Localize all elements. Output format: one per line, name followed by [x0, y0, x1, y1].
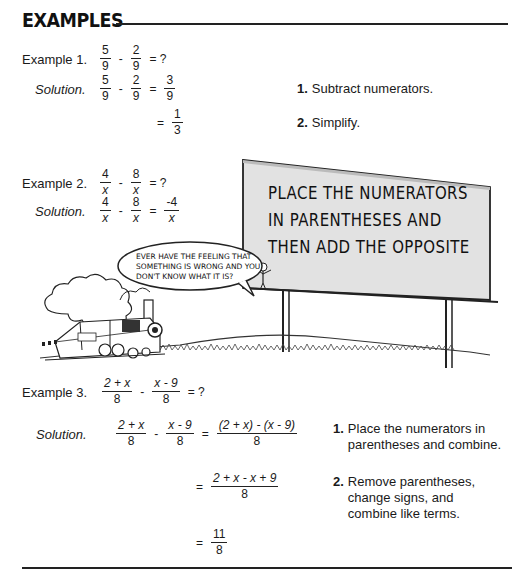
example-3-solution-line-1: 2 + x8 - x - 98 = (2 + x) - (x - 9)8 — [112, 419, 301, 448]
example-3-solution-line-3: = 118 — [192, 528, 231, 557]
example-3-solution-line-2: = 2 + x - x + 98 — [192, 472, 282, 501]
speech-bubble-text: EVER HAVE THE FEELING THAT SOMETHING IS … — [136, 252, 260, 282]
example-3-solution-label: Solution. — [36, 427, 87, 442]
bottom-rule — [22, 567, 512, 569]
example-3-label: Example 3. — [22, 385, 87, 400]
billboard-text: PLACE THE NUMERATORS IN PARENTHESES AND … — [268, 180, 470, 261]
example-3-step-2: 2.Remove parentheses,change signs, andco… — [333, 474, 475, 522]
example-3-problem: 2 + x8 - x - 98 = ? — [98, 377, 209, 406]
example-3-step-1: 1.Place the numerators inparentheses and… — [333, 421, 501, 453]
